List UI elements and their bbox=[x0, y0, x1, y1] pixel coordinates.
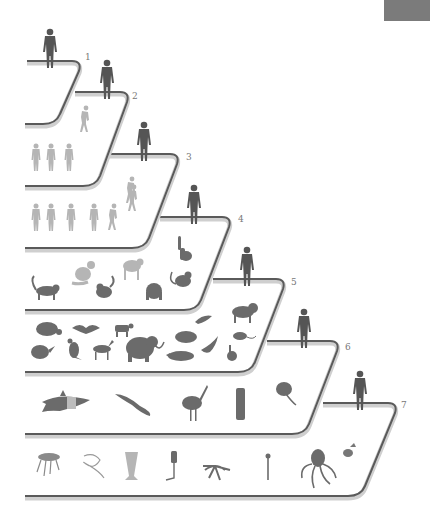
lemur-icon bbox=[178, 236, 192, 261]
jellyfish-icon bbox=[37, 453, 60, 476]
hominin-icon bbox=[47, 204, 56, 232]
tarsier-icon bbox=[171, 272, 192, 288]
bird-icon bbox=[195, 316, 212, 324]
tier-1: 1 bbox=[25, 52, 91, 126]
platypus-icon bbox=[166, 351, 194, 361]
step-label-7: 7 bbox=[401, 400, 407, 410]
step-label-2: 2 bbox=[132, 91, 138, 101]
hominin-icon bbox=[32, 144, 41, 172]
rabbit-icon bbox=[227, 345, 237, 361]
frog-icon bbox=[276, 382, 296, 405]
tortoise-icon bbox=[175, 331, 197, 343]
lion-icon bbox=[232, 303, 258, 323]
tier-7: 7 bbox=[25, 400, 407, 498]
tier-7-invertebrates bbox=[37, 443, 356, 488]
octopus-icon bbox=[302, 449, 336, 488]
step-label-3: 3 bbox=[186, 152, 192, 162]
tier-7-organisms bbox=[42, 382, 296, 421]
sponge-icon bbox=[125, 452, 138, 480]
hominin-icon bbox=[67, 204, 76, 232]
hominin-icon bbox=[108, 204, 117, 230]
hominin-icon bbox=[65, 144, 74, 172]
horse-icon bbox=[93, 340, 114, 360]
kangaroo-icon bbox=[68, 339, 83, 361]
hominin-icon bbox=[47, 144, 56, 172]
tier-3-organisms bbox=[32, 144, 136, 204]
hominin-icon bbox=[90, 204, 99, 232]
tier-4-organisms bbox=[32, 185, 138, 231]
howler-monkey-icon bbox=[96, 276, 114, 298]
lizard-icon bbox=[115, 394, 150, 416]
step-label-4: 4 bbox=[238, 214, 244, 224]
mammoth-icon bbox=[126, 336, 164, 362]
hominin-walking-icon bbox=[80, 106, 89, 132]
tier-2-organisms bbox=[80, 106, 89, 132]
dolphin-icon bbox=[201, 336, 218, 353]
step-label-6: 6 bbox=[345, 342, 351, 352]
coral-polyp-icon bbox=[266, 454, 271, 481]
bat-icon bbox=[72, 325, 100, 334]
tier-2: 2 bbox=[25, 91, 138, 188]
starfish-icon bbox=[203, 466, 230, 480]
orangutan-icon bbox=[146, 283, 162, 300]
rat-icon bbox=[233, 332, 256, 340]
hominin-icon bbox=[32, 204, 41, 232]
step-label-1: 1 bbox=[85, 52, 91, 62]
tree-stump-icon bbox=[236, 388, 245, 420]
ape-faded-icon bbox=[72, 261, 95, 284]
chimp-faded-icon bbox=[123, 259, 144, 281]
tier-5-organisms bbox=[32, 236, 192, 300]
ostrich-icon bbox=[182, 385, 208, 421]
evolution-staircase-diagram: 7 6 5 4 3 2 1 bbox=[0, 0, 430, 532]
shark-icon bbox=[42, 390, 90, 412]
fly-icon bbox=[343, 443, 356, 457]
turtle-mammal-icon bbox=[36, 322, 62, 336]
worm-icon bbox=[84, 455, 104, 478]
tubeworm-icon bbox=[166, 451, 177, 480]
cow-icon bbox=[115, 324, 134, 338]
armadillo-icon bbox=[31, 345, 55, 359]
monkey-icon bbox=[32, 276, 59, 300]
step-label-5: 5 bbox=[291, 277, 297, 287]
